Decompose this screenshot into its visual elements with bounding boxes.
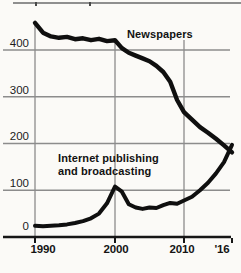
x-axis-tick-label: 2010 [164, 243, 200, 255]
series-label-newspapers: Newspapers [127, 28, 207, 41]
y-axis-tick-label: 300 [1, 85, 29, 96]
x-axis-tick-label: '16 [204, 243, 240, 255]
x-axis-tick-label: 1990 [25, 243, 61, 255]
data-line-newspapers [35, 23, 232, 153]
y-axis-tick-label: 0 [1, 221, 29, 232]
employment-line-chart: 400 300 200 100 0 1990 2000 2010 '16 New… [0, 0, 241, 273]
series-label-internet-publishing: Internet publishing and broadcasting [58, 152, 170, 177]
y-axis-tick-label: 200 [1, 131, 29, 142]
y-axis-tick-label: 400 [1, 38, 29, 49]
x-axis-tick-label: 2000 [98, 243, 134, 255]
plot-area [0, 0, 241, 273]
y-axis-tick-label: 100 [1, 178, 29, 189]
